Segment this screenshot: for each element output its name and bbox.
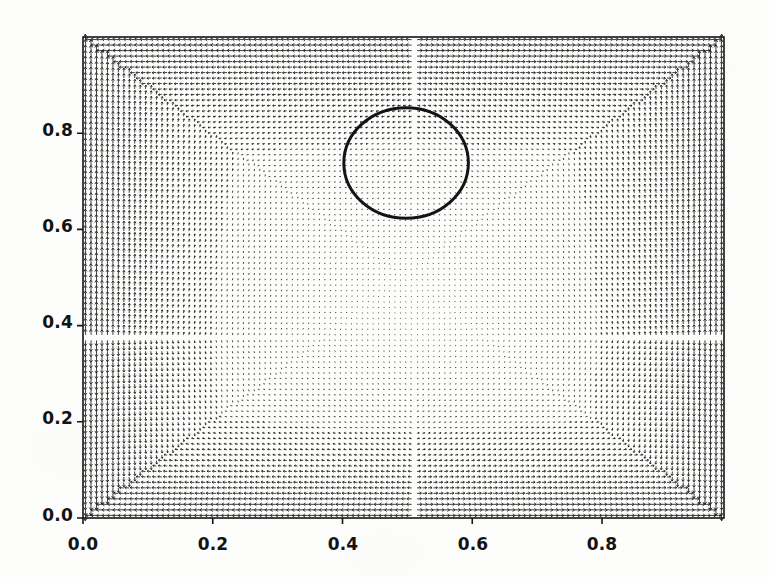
x-tick-label-3: 0.6 [458, 534, 489, 554]
x-tick-label-4: 0.8 [587, 534, 618, 554]
y-tick-label-1: 0.6 [18, 216, 73, 236]
plot-canvas [0, 0, 769, 577]
interface-contour-circle-0 [344, 108, 469, 219]
y-tick-label-4: 0.0 [18, 505, 73, 525]
x-tick-label-2: 0.4 [328, 534, 359, 554]
y-tick-label-2: 0.4 [18, 312, 73, 332]
x-tick-label-0: 0.0 [68, 534, 99, 554]
quiver-plot-figure [0, 0, 769, 577]
y-tick-label-0: 0.8 [18, 120, 73, 140]
x-tick-label-1: 0.2 [198, 534, 229, 554]
y-tick-label-3: 0.2 [18, 408, 73, 428]
figure-page: 0.8 0.6 0.4 0.2 0.0 0.0 0.2 0.4 0.6 0.8 [0, 0, 769, 577]
